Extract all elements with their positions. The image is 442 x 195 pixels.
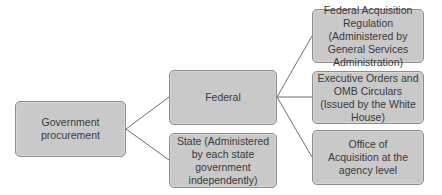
node-label: Government procurement: [35, 116, 107, 142]
node-state: State (Administered by each state govern…: [169, 133, 277, 188]
node-executive-orders: Executive Orders and OMB Circulars (Issu…: [312, 71, 424, 124]
node-label: Federal: [205, 91, 241, 104]
node-government-procurement: Government procurement: [15, 101, 126, 157]
node-label: Executive Orders and OMB Circulars (Issu…: [317, 72, 419, 124]
node-label: Office of Acquisition at the agency leve…: [324, 138, 412, 177]
procurement-diagram: Government procurement Federal State (Ad…: [0, 0, 442, 195]
edge-gov-state: [126, 129, 169, 160]
node-label: Federal Acquisition Regulation (Administ…: [317, 4, 419, 69]
node-office-of-acquisition: Office of Acquisition at the agency leve…: [312, 130, 424, 185]
edge-federal-office: [277, 97, 312, 157]
edge-federal-far: [277, 36, 312, 97]
node-federal-acquisition-regulation: Federal Acquisition Regulation (Administ…: [312, 9, 424, 63]
node-federal: Federal: [169, 70, 277, 125]
node-label: State (Administered by each state govern…: [174, 135, 272, 187]
edge-gov-federal: [126, 97, 169, 129]
